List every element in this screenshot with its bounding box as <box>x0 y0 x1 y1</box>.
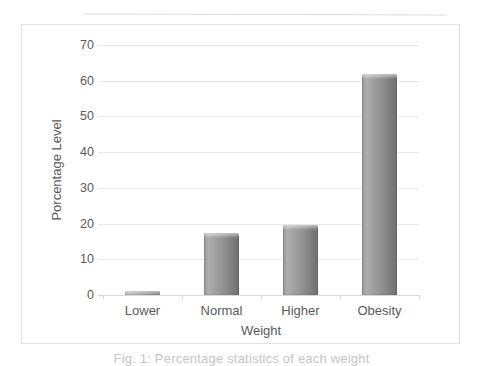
y-tick-label-0: 0 <box>60 288 94 302</box>
figure-caption: Fig. 1: Percentage statistics of each we… <box>0 351 483 366</box>
top-divider-line <box>84 14 446 16</box>
x-axis-tick <box>261 295 262 299</box>
bar-lower <box>125 291 160 295</box>
y-axis-title: Porcentage Level <box>49 119 64 220</box>
y-tick-label-40: 40 <box>60 145 94 159</box>
y-tick-label-60: 60 <box>60 74 94 88</box>
x-axis-tick <box>419 295 420 299</box>
x-category-label-normal: Normal <box>182 303 262 318</box>
y-tick-label-10: 10 <box>60 252 94 266</box>
x-axis-tick <box>182 295 183 299</box>
x-category-label-lower: Lower <box>103 303 183 318</box>
x-axis-tick <box>340 295 341 299</box>
x-axis-tick <box>103 295 104 299</box>
bar-higher <box>283 225 318 295</box>
gridline-y-70 <box>98 45 419 46</box>
y-tick-label-20: 20 <box>60 217 94 231</box>
chart-frame: Porcentage Level 010203040506070 LowerNo… <box>21 24 460 344</box>
y-tick-label-30: 30 <box>60 181 94 195</box>
bar-normal <box>204 233 239 296</box>
y-tick-label-70: 70 <box>60 38 94 52</box>
x-category-label-obesity: Obesity <box>340 303 420 318</box>
bar-obesity <box>362 74 397 295</box>
x-category-label-higher: Higher <box>261 303 341 318</box>
plot-area <box>103 45 419 295</box>
x-axis-title: Weight <box>103 323 419 338</box>
y-tick-label-50: 50 <box>60 109 94 123</box>
